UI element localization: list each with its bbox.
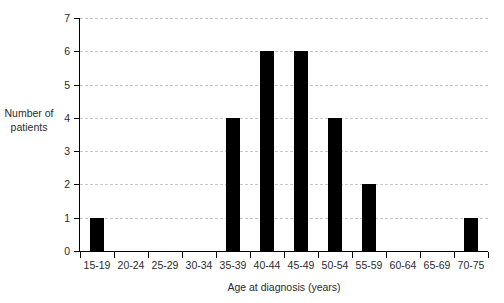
- bar: [362, 184, 376, 251]
- x-axis-title: Age at diagnosis (years): [80, 281, 488, 293]
- y-tick-label: 2: [54, 179, 70, 189]
- x-tick-mark: [182, 252, 183, 258]
- x-tick-label: 70-75: [449, 259, 493, 272]
- bar: [294, 51, 308, 251]
- y-tick-label: 6: [54, 46, 70, 56]
- bar: [260, 51, 274, 251]
- y-tick-label: 0: [54, 246, 70, 256]
- y-tick-label: 5: [54, 80, 70, 90]
- bars-group: [80, 18, 488, 251]
- x-tick-mark: [352, 252, 353, 258]
- y-tick-label: 3: [54, 146, 70, 156]
- x-tick-mark: [80, 252, 81, 258]
- y-tick-label: 4: [54, 113, 70, 123]
- bar: [90, 218, 104, 251]
- bar: [464, 218, 478, 251]
- histogram-chart: Number of patients 01234567 15-1920-2425…: [0, 0, 504, 303]
- x-tick-mark: [420, 252, 421, 258]
- y-axis-title: Number of patients: [0, 106, 58, 134]
- y-tick-label: 1: [54, 213, 70, 223]
- x-tick-mark: [454, 252, 455, 258]
- x-tick-mark: [148, 252, 149, 258]
- x-tick-mark: [386, 252, 387, 258]
- x-tick-mark: [318, 252, 319, 258]
- x-tick-mark: [250, 252, 251, 258]
- x-tick-mark: [114, 252, 115, 258]
- x-tick-mark: [216, 252, 217, 258]
- x-tick-mark: [284, 252, 285, 258]
- y-tick-label: 7: [54, 13, 70, 23]
- x-tick-mark: [488, 252, 489, 258]
- bar: [328, 118, 342, 251]
- bar: [226, 118, 240, 251]
